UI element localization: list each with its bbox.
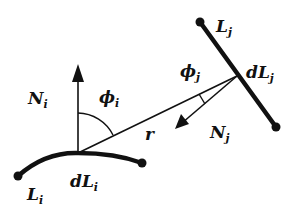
label-Lj: Lj	[215, 16, 232, 39]
label-Ni: Ni	[27, 88, 48, 111]
endpoint-Lj-top	[196, 18, 205, 27]
label-dLi: dLi	[70, 171, 98, 194]
label-Li: Li	[26, 184, 43, 207]
label-dLj: dLj	[246, 62, 274, 85]
angle-arc-phi-i	[78, 113, 113, 135]
label-r: r	[145, 124, 155, 144]
endpoint-Lj-bottom	[272, 123, 281, 132]
arrowhead-Ni-icon	[72, 64, 84, 82]
endpoint-Li-right	[138, 159, 147, 168]
angle-tick-phi-j	[199, 94, 205, 104]
label-phi-j: ϕj	[180, 61, 200, 84]
label-Nj: Nj	[209, 122, 230, 145]
endpoint-Li-left	[14, 172, 23, 181]
line-element-geometry-diagram: Ni ϕi Lj ϕj dLj r Nj Li dLi	[0, 0, 295, 213]
arrowhead-Nj-icon	[175, 114, 189, 129]
label-phi-i: ϕi	[99, 87, 119, 110]
